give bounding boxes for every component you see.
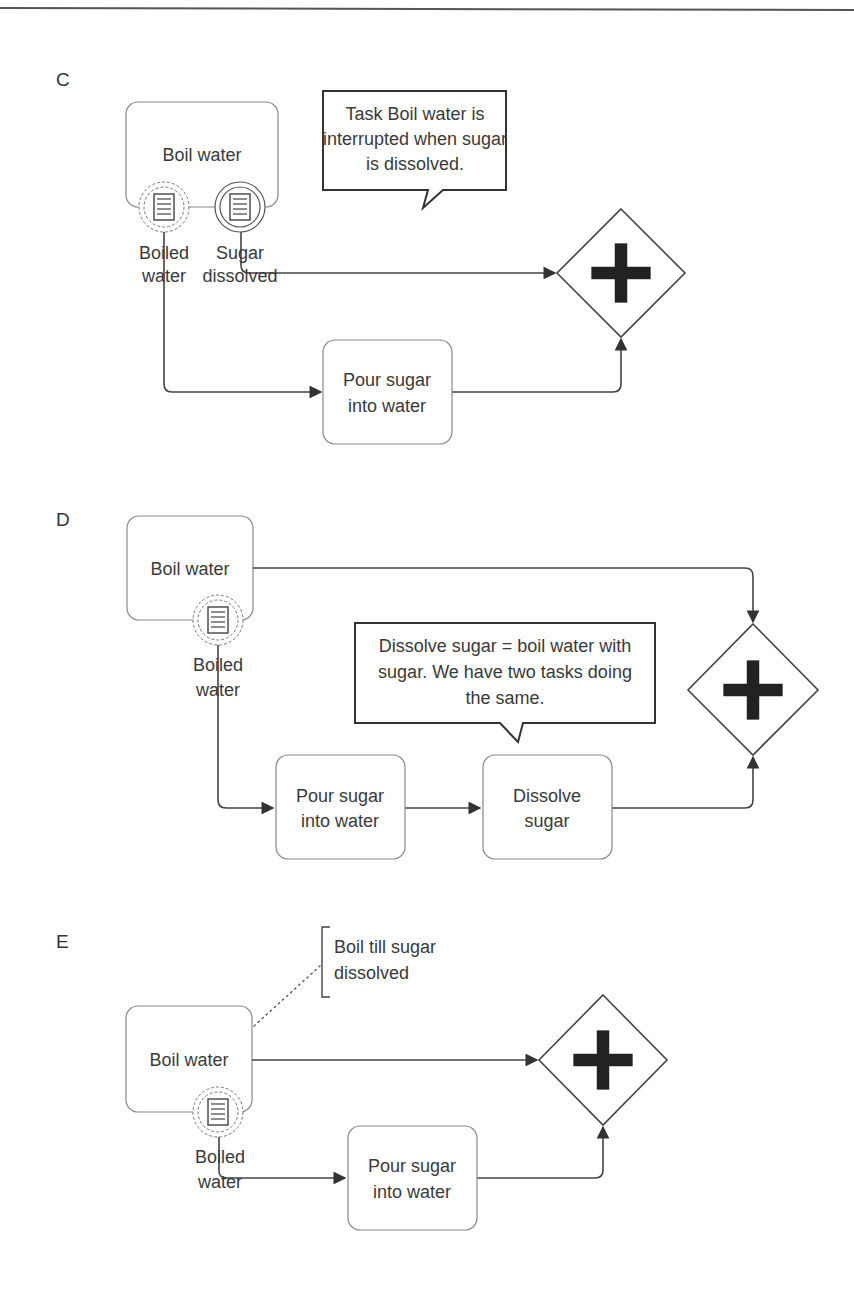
event-label-boiled-line1: Boiled [195,1147,245,1167]
flow-sugar-to-gateway-c[interactable] [241,232,555,273]
task-pour-sugar-e[interactable]: Pour sugar into water [348,1126,477,1230]
svg-text:Task Boil water is: Task Boil water is [345,104,484,124]
conditional-icon [154,194,174,220]
parallel-gateway-e[interactable] [539,995,667,1125]
svg-text:the same.: the same. [465,688,544,708]
section-e: E Boil till sugar dissolved Boil water B… [56,927,667,1230]
svg-text:Pour sugar: Pour sugar [368,1156,456,1176]
conditional-icon [230,194,250,220]
svg-text:into water: into water [373,1182,451,1202]
svg-text:sugar. We have two tasks doing: sugar. We have two tasks doing [378,662,632,682]
svg-text:Pour sugar: Pour sugar [296,786,384,806]
event-label-boiled-line2: water [197,1172,242,1192]
parallel-gateway-d[interactable] [688,624,818,755]
boundary-event-boiled-water-e[interactable] [193,1087,243,1137]
callout-c: Task Boil water is interrupted when suga… [323,91,507,208]
task-label-line1: Pour sugar [343,370,431,390]
top-rule [0,8,854,10]
task-label: Boil water [162,145,241,165]
task-label: Boil water [149,1050,228,1070]
task-pour-sugar-c[interactable]: Pour sugar into water [323,340,452,444]
svg-text:sugar: sugar [524,811,569,831]
flow-pour-to-gateway-c[interactable] [452,339,621,392]
event-label-sugar-line1: Sugar [216,243,264,263]
event-label-boiled-line2: water [195,680,240,700]
svg-text:dissolved: dissolved [334,963,409,983]
section-c-label: C [56,69,70,90]
event-label-boiled-line1: Boiled [139,243,189,263]
section-e-label: E [56,931,69,952]
svg-text:interrupted when sugar: interrupted when sugar [323,129,507,149]
task-label-line2: into water [348,396,426,416]
bpmn-diagram-canvas: C Boil water Boiled water Sugar dissolve… [0,0,854,1292]
svg-text:is dissolved.: is dissolved. [366,154,464,174]
task-pour-sugar-d[interactable]: Pour sugar into water [276,755,405,859]
task-dissolve-sugar-d[interactable]: Dissolve sugar [483,755,612,859]
text-annotation-e[interactable]: Boil till sugar dissolved [322,927,436,997]
section-d-label: D [56,509,70,530]
flow-boil-to-gateway-d[interactable] [253,568,753,622]
conditional-icon [208,1099,228,1125]
event-label-sugar-line2: dissolved [202,266,277,286]
association-line-e [254,966,320,1026]
event-label-boiled-line2: water [141,266,186,286]
boundary-event-boiled-water-d[interactable] [193,595,243,645]
parallel-gateway-c[interactable] [557,209,685,337]
event-label-boiled-line1: Boiled [193,655,243,675]
flow-pour-to-gateway-e[interactable] [476,1127,603,1178]
svg-text:into water: into water [301,811,379,831]
svg-text:Boil till sugar: Boil till sugar [334,937,436,957]
boundary-event-sugar-dissolved-c[interactable] [215,182,265,232]
task-label: Boil water [150,559,229,579]
conditional-icon [208,607,228,633]
svg-text:Dissolve sugar = boil water wi: Dissolve sugar = boil water with [379,636,632,656]
callout-d: Dissolve sugar = boil water with sugar. … [355,623,655,742]
flow-dissolve-to-gateway-d[interactable] [612,757,753,808]
section-d: D Boil water Boiled water Pour sugar int… [56,509,818,859]
boundary-event-boiled-water-c[interactable] [139,182,189,232]
svg-text:Dissolve: Dissolve [513,786,581,806]
section-c: C Boil water Boiled water Sugar dissolve… [56,69,685,444]
